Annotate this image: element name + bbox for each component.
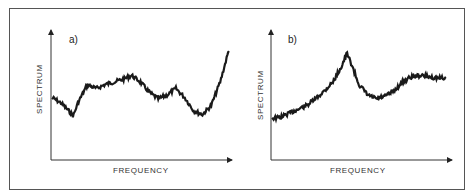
panel-a-xlabel: FREQUENCY	[113, 166, 169, 175]
panel-a-axes	[51, 30, 232, 160]
chart-canvas	[0, 0, 469, 196]
panel-a-spectrum-line	[52, 51, 229, 117]
panel-a-tag: a)	[69, 34, 78, 45]
panel-b-ylabel: SPECTRUM	[256, 70, 265, 120]
panel-b-axes	[271, 30, 452, 160]
panel-b-tag: b)	[288, 34, 297, 45]
panel-b-spectrum-line	[272, 52, 446, 119]
panel-a-ylabel: SPECTRUM	[35, 64, 44, 114]
panel-b-xlabel: FREQUENCY	[330, 166, 386, 175]
